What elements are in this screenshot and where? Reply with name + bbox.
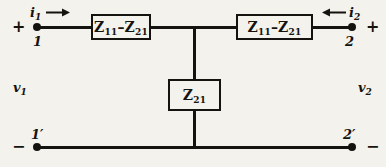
node-dot-terminal-2-prime	[348, 143, 356, 151]
polarity-sign-top-left: +	[12, 19, 25, 35]
current-label-i1: i1	[30, 6, 41, 19]
series-impedance-right-label: Z11–Z21	[248, 19, 302, 35]
current-arrow-i1-right-icon	[46, 8, 70, 17]
wire-top-left-segment	[36, 26, 92, 29]
terminal-label-2: 2	[345, 35, 354, 48]
series-impedance-box-right: Z11–Z21	[236, 14, 313, 40]
wire-shunt-lower	[193, 110, 196, 149]
terminal-label-1-prime: 1′	[31, 128, 43, 141]
series-impedance-left-label: Z11–Z21	[94, 19, 148, 35]
voltage-label-v1: v1	[13, 81, 27, 94]
series-impedance-box-left: Z11–Z21	[91, 14, 151, 40]
current-label-i2: i2	[349, 6, 360, 19]
wire-top-right-segment	[312, 26, 351, 29]
shunt-impedance-label: Z21	[183, 87, 206, 103]
polarity-sign-bottom-left: −	[12, 139, 25, 155]
terminal-label-2-prime: 2′	[343, 128, 355, 141]
polarity-sign-bottom-right: −	[366, 139, 379, 155]
node-dot-terminal-2	[348, 23, 356, 31]
polarity-sign-top-right: +	[366, 19, 379, 35]
wire-shunt-upper	[193, 26, 196, 80]
terminal-label-1: 1	[33, 35, 42, 48]
circuit-diagram: Z11–Z21 Z11–Z21 Z21 1 2 1′ 2′ + + − − i1…	[0, 0, 386, 167]
voltage-label-v2: v2	[358, 81, 372, 94]
node-dot-terminal-1	[33, 23, 41, 31]
node-dot-terminal-1-prime	[33, 143, 41, 151]
current-arrow-i2-left-icon	[322, 8, 346, 17]
shunt-impedance-box: Z21	[168, 79, 221, 111]
